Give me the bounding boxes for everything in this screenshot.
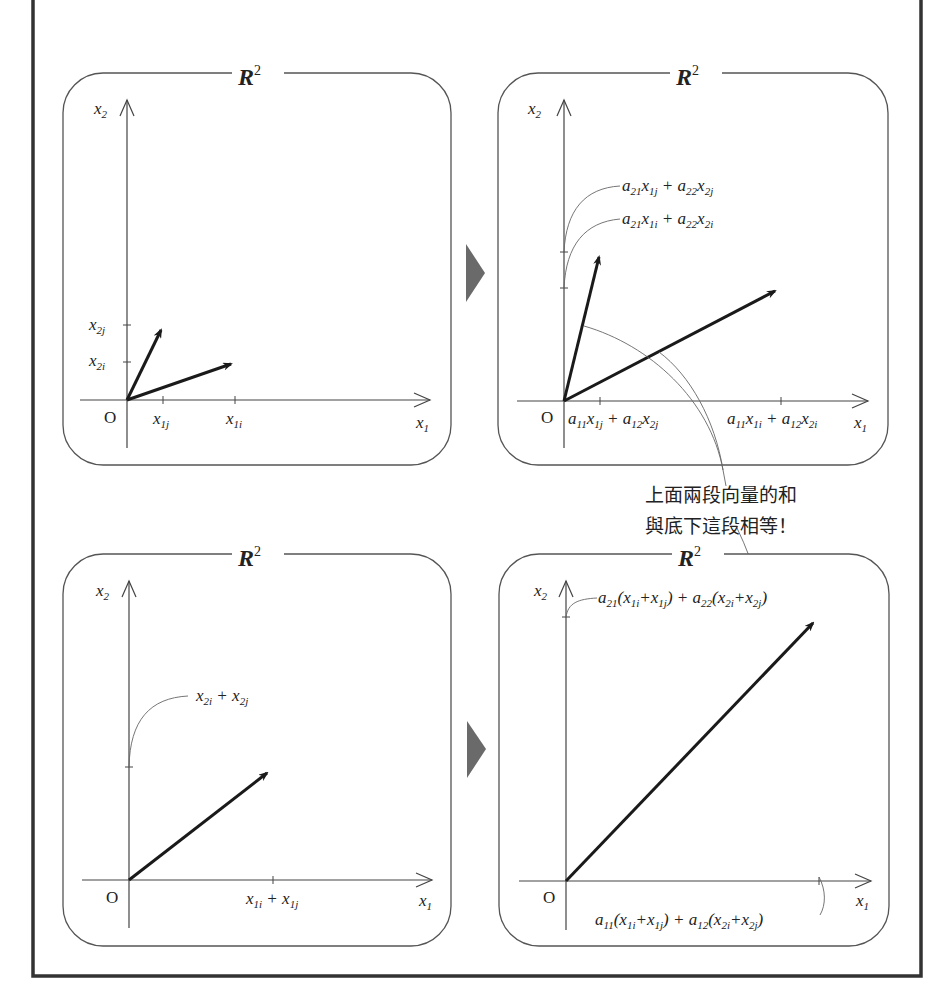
note-line-1: 上面兩段向量的和 [645, 484, 797, 506]
panel-border [63, 73, 451, 465]
origin-label: O [106, 888, 118, 907]
panel-bottom-left: R2 x2 x1 O x2i + x2j x1i + x1j [63, 543, 451, 946]
label-x-sum: a11(x1i+x1j) + a12(x2i+x2j) [595, 910, 764, 931]
label-y-sum: a21(x1i+x1j) + a22(x2i+x2j) [598, 588, 767, 609]
origin-label: O [543, 888, 555, 907]
panel-bottom-right: R2 x2 x1 O a21(x1i+x1j) + a22(x2i+x2j) a… [499, 543, 889, 946]
note-line-2: 與底下這段相等！ [645, 515, 797, 537]
transform-arrow-icon [466, 244, 485, 302]
panel-border [499, 554, 889, 946]
panel-top-left: R2 x2 x1 O x2j x2i x1j x1i [63, 62, 451, 465]
origin-label: O [104, 408, 116, 427]
panel-border [498, 73, 888, 465]
transform-arrow-icon [467, 721, 486, 778]
panel-top-right: R2 x2 x1 O a21x1j + a22x2j a21x1i + a22x… [498, 62, 888, 465]
panel-border [63, 554, 451, 946]
origin-label: O [541, 408, 553, 427]
linear-map-diagram: R2 x2 x1 O x2j x2i x1j x1i R2 [0, 0, 951, 1008]
